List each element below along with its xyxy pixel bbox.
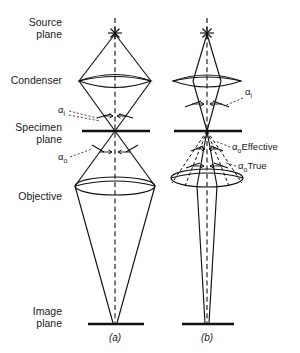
figure-canvas: (a) αi αo: [0, 0, 300, 353]
alpha-i-label-b: αi: [224, 86, 253, 106]
panel-b-group: (b) αi αoEffective αoTrue: [171, 18, 278, 343]
row-labels-column: Source plane Condenser Specimen plane Ob…: [11, 16, 63, 329]
alpha-o-effective-label-b: αoEffective: [215, 141, 278, 154]
row-label-objective: Objective: [18, 190, 62, 202]
row-label-specimen-plane-line2: plane: [36, 133, 62, 145]
alpha-o-label-a: αo: [58, 149, 92, 164]
panel-a-group: (a) αi αo: [58, 18, 155, 343]
row-label-condenser: Condenser: [11, 74, 63, 86]
alpha-o-effective-suffix-b: Effective: [241, 141, 277, 152]
illumination-rays-upper-b: [193, 34, 221, 81]
image-rays-b: [197, 186, 217, 323]
svg-text:αi: αi: [58, 104, 66, 117]
alpha-i-subscript-a: i: [64, 110, 66, 117]
row-label-image-plane-line1: Image: [33, 305, 62, 317]
svg-text:αoEffective: αoEffective: [232, 141, 278, 154]
panel-a-caption: (a): [109, 332, 121, 343]
row-label-source-plane-line1: Source: [29, 16, 62, 28]
svg-text:αoTrue: αoTrue: [238, 160, 267, 173]
svg-text:αi: αi: [245, 86, 253, 99]
alpha-i-label-a: αi: [58, 104, 100, 121]
source-point-star-a: [108, 27, 122, 39]
alpha-i-subscript-b: i: [251, 92, 253, 99]
panel-b-caption: (b): [201, 332, 213, 343]
image-rays-a: [75, 186, 155, 323]
optical-ray-diagram: (a) αi αo: [0, 0, 300, 353]
alpha-o-subscript-a: o: [64, 157, 68, 164]
row-label-specimen-plane-line1: Specimen: [15, 121, 62, 133]
alpha-o-true-label-b: αoTrue: [226, 160, 267, 173]
row-label-source-plane-line2: plane: [36, 28, 62, 40]
source-point-star-b: [200, 27, 214, 39]
row-label-image-plane-line2: plane: [36, 317, 62, 329]
alpha-o-true-suffix-b: True: [247, 160, 266, 171]
svg-text:αo: αo: [58, 151, 68, 164]
